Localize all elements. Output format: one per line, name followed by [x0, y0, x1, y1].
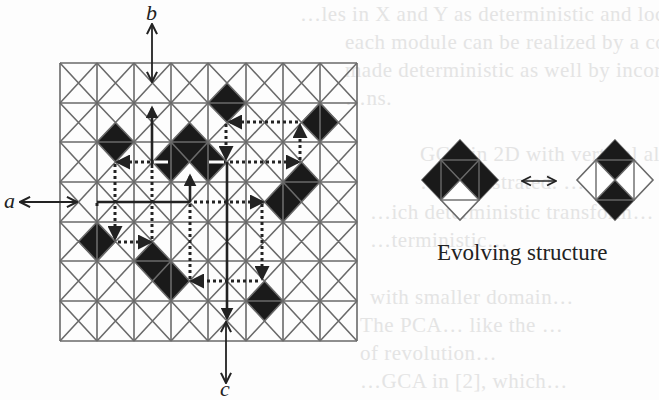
axis-c-label: c: [220, 376, 230, 400]
axis-a-label: a: [4, 188, 15, 213]
figure-caption: Evolving structure: [437, 240, 608, 266]
gca-diagram: b a c: [0, 0, 659, 400]
structure-state-right: [577, 140, 653, 220]
structure-state-left: [422, 140, 498, 220]
axis-b-label: b: [146, 0, 157, 25]
